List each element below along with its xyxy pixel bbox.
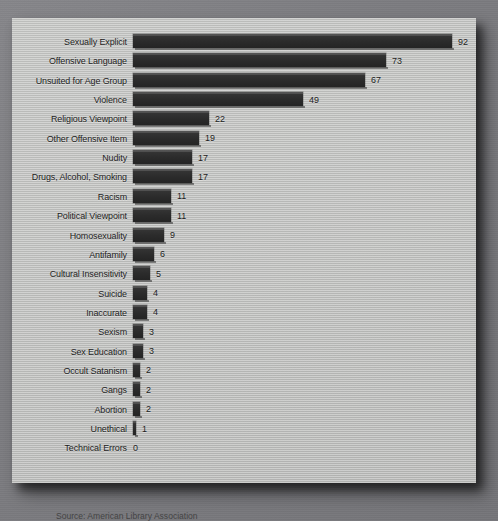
bar-value-label: 73 (392, 55, 402, 66)
bar-group: 17 (133, 169, 209, 183)
bar-group: 4 (133, 286, 158, 300)
category-label: Abortion (0, 404, 127, 415)
bar (133, 324, 143, 338)
bar-group: 22 (133, 111, 226, 125)
bar (133, 247, 154, 261)
bar-group: 2 (133, 402, 151, 416)
bar-group: 1 (133, 421, 148, 435)
bar-group: 0 (133, 440, 138, 454)
bar (133, 402, 140, 416)
category-label: Unsuited for Age Group (0, 75, 127, 86)
bar-value-label: 2 (146, 403, 151, 414)
chart-row: Unethical1 (12, 419, 476, 438)
bar-value-label: 19 (205, 132, 215, 143)
bar-value-label: 67 (371, 74, 381, 85)
category-label: Technical Errors (0, 442, 127, 453)
chart-row: Cultural Insensitivity5 (12, 264, 476, 283)
bar-value-label: 4 (153, 306, 158, 317)
bar (133, 189, 171, 203)
chart-row: Sex Education3 (12, 342, 476, 361)
bar-value-label: 4 (153, 287, 158, 298)
bar-group: 6 (133, 247, 165, 261)
bar-value-label: 2 (146, 364, 151, 375)
bar-value-label: 3 (149, 326, 154, 337)
bar-value-label: 49 (309, 94, 319, 105)
bar-group: 11 (133, 189, 187, 203)
bar-value-label: 2 (146, 384, 151, 395)
chart-row: Gangs2 (12, 380, 476, 399)
category-label: Gangs (0, 384, 127, 395)
bar-group: 73 (133, 53, 403, 67)
bar-group: 92 (133, 34, 469, 48)
chart-panel: Sexually Explicit92Offensive Language73U… (12, 18, 476, 483)
bar (133, 131, 199, 145)
bar-value-label: 17 (198, 171, 208, 182)
bar-value-label: 6 (160, 248, 165, 259)
category-label: Racism (0, 191, 127, 202)
bar (133, 363, 140, 377)
bar-value-label: 22 (215, 113, 225, 124)
bar (133, 305, 147, 319)
category-label: Sex Education (0, 346, 127, 357)
category-label: Cultural Insensitivity (0, 268, 127, 279)
bar-value-label: 0 (133, 442, 138, 453)
chart-row: Abortion2 (12, 400, 476, 419)
category-label: Drugs, Alcohol, Smoking (0, 171, 127, 182)
bar-group: 3 (133, 324, 155, 338)
bar (133, 344, 143, 358)
chart-row: Technical Errors0 (12, 438, 476, 457)
chart-row: Homosexuality9 (12, 226, 476, 245)
category-label: Violence (0, 94, 127, 105)
bar (133, 111, 209, 125)
bar-group: 11 (133, 208, 187, 222)
bar-group: 3 (133, 344, 155, 358)
chart-row: Inaccurate4 (12, 303, 476, 322)
category-label: Religious Viewpoint (0, 113, 127, 124)
bar-value-label: 11 (177, 190, 186, 201)
chart-row: Occult Satanism2 (12, 361, 476, 380)
category-label: Offensive Language (0, 55, 127, 66)
bar-value-label: 9 (170, 229, 175, 240)
chart-row: Unsuited for Age Group67 (12, 71, 476, 90)
chart-row: Offensive Language73 (12, 51, 476, 70)
chart-row: Sexism3 (12, 322, 476, 341)
bar (133, 421, 136, 435)
category-label: Antifamily (0, 249, 127, 260)
category-label: Sexually Explicit (0, 36, 127, 47)
chart-row: Drugs, Alcohol, Smoking17 (12, 167, 476, 186)
bar (133, 169, 192, 183)
bar (133, 228, 164, 242)
bar (133, 266, 150, 280)
bar-group: 4 (133, 305, 158, 319)
bar-group: 49 (133, 92, 320, 106)
bar (133, 286, 147, 300)
bar (133, 73, 365, 87)
source-caption: Source: American Library Association (56, 511, 198, 521)
chart-row: Suicide4 (12, 284, 476, 303)
bar (133, 208, 171, 222)
bar-value-label: 17 (198, 152, 208, 163)
bar-value-label: 11 (177, 210, 186, 221)
bar (133, 34, 452, 48)
bar-group: 2 (133, 382, 151, 396)
chart-row: Nudity17 (12, 148, 476, 167)
bar (133, 150, 192, 164)
category-label: Inaccurate (0, 307, 127, 318)
bar-group: 19 (133, 131, 216, 145)
bar-group: 9 (133, 228, 176, 242)
chart-row: Racism11 (12, 187, 476, 206)
category-label: Nudity (0, 152, 127, 163)
chart-row: Sexually Explicit92 (12, 32, 476, 51)
chart-row: Political Viewpoint11 (12, 206, 476, 225)
bar-group: 67 (133, 73, 382, 87)
chart-row: Antifamily6 (12, 245, 476, 264)
category-label: Sexism (0, 326, 127, 337)
bar-value-label: 5 (156, 268, 161, 279)
bar-value-label: 92 (458, 36, 468, 47)
bar-group: 17 (133, 150, 209, 164)
category-label: Unethical (0, 423, 127, 434)
category-label: Other Offensive Item (0, 133, 127, 144)
chart-row: Violence49 (12, 90, 476, 109)
bar-chart: Sexually Explicit92Offensive Language73U… (12, 18, 476, 483)
category-label: Occult Satanism (0, 365, 127, 376)
